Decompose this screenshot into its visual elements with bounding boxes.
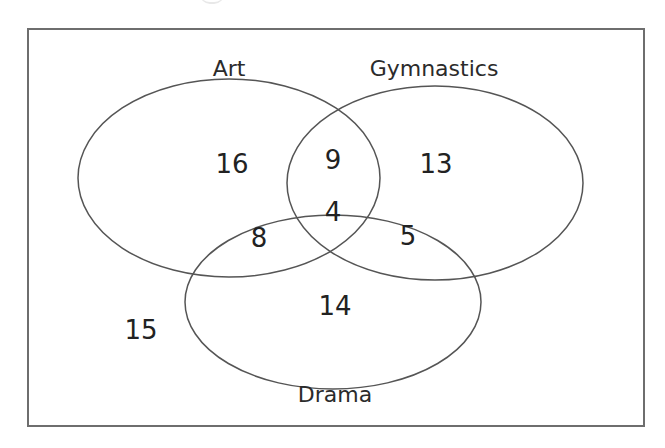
drama-set-label: Drama (298, 384, 372, 406)
region-all-three: 4 (325, 199, 342, 225)
region-art-gymnastics: 9 (325, 147, 342, 173)
region-art-only: 16 (215, 151, 248, 177)
region-drama-only: 14 (318, 293, 351, 319)
region-gymnastics-drama: 5 (400, 223, 417, 249)
venn-diagram-stage: Art Gymnastics Drama 16 9 13 4 8 5 14 15 (0, 0, 665, 448)
region-art-drama: 8 (251, 225, 268, 251)
gymnastics-set-label: Gymnastics (370, 58, 499, 80)
region-none: 15 (124, 317, 157, 343)
region-gymnastics-only: 13 (419, 151, 452, 177)
art-set-label: Art (213, 58, 246, 80)
